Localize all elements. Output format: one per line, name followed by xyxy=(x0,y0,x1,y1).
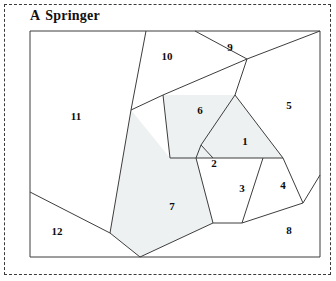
region-label-7: 7 xyxy=(169,200,175,212)
region-label-3: 3 xyxy=(239,182,245,194)
subdivision-diagram: 123456789101112 xyxy=(0,0,336,281)
figure-root: ASpringer 123456789101112 xyxy=(0,0,336,281)
regions-layer xyxy=(30,31,320,257)
region-label-9: 9 xyxy=(227,41,233,53)
region-label-1: 1 xyxy=(242,135,248,147)
region-label-12: 12 xyxy=(52,225,64,237)
region-label-8: 8 xyxy=(286,224,292,236)
region-label-11: 11 xyxy=(71,110,81,122)
region-label-6: 6 xyxy=(197,104,203,116)
region-label-5: 5 xyxy=(286,99,292,111)
region-label-10: 10 xyxy=(162,50,174,62)
region-label-2: 2 xyxy=(211,157,217,169)
region-label-4: 4 xyxy=(280,179,286,191)
